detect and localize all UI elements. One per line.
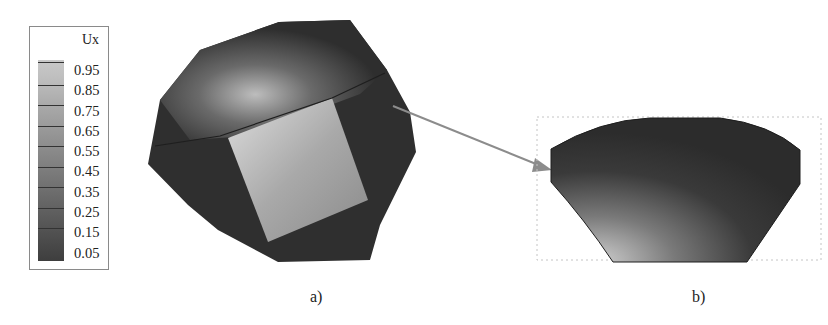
cross-section-shape <box>551 118 800 262</box>
zoom-arrow <box>393 106 552 172</box>
figure-canvas <box>0 0 828 325</box>
caption-b: b) <box>692 288 705 306</box>
caption-a: a) <box>310 288 322 306</box>
panel-a-polyhedron <box>148 20 416 262</box>
panel-b-section <box>537 117 821 262</box>
arrow-head-icon <box>532 158 552 172</box>
